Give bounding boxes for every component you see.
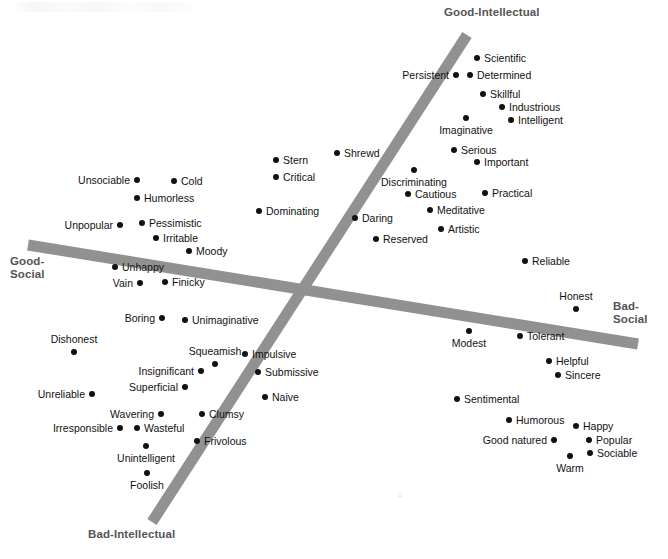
data-point-label: Important: [484, 157, 528, 168]
data-point-label: Modest: [452, 338, 486, 349]
data-point: [242, 351, 248, 357]
data-point: [405, 191, 411, 197]
data-point: [453, 72, 459, 78]
data-point-label: Reliable: [532, 256, 570, 267]
data-point-label: Tolerant: [527, 331, 564, 342]
data-point-label: Unpopular: [65, 220, 113, 231]
data-point-label: Irritable: [163, 233, 198, 244]
data-point: [480, 91, 486, 97]
data-point: [474, 159, 480, 165]
data-point-label: Industrious: [509, 102, 560, 113]
data-point-label: Shrewd: [344, 148, 380, 159]
data-point-label: Unsociable: [78, 175, 130, 186]
data-point-label: Unreliable: [38, 389, 85, 400]
data-point-label: Wavering: [110, 409, 154, 420]
data-point: [262, 394, 268, 400]
data-point: [373, 236, 379, 242]
data-point: [451, 147, 457, 153]
data-point-label: Foolish: [130, 480, 164, 491]
data-point: [186, 248, 192, 254]
data-point: [134, 195, 140, 201]
data-point-label: Imaginative: [439, 125, 493, 136]
data-point-label: Moody: [196, 246, 228, 257]
scatter-plot-figure: Good-Intellectual Bad-Intellectual Good-…: [0, 0, 668, 559]
data-point: [134, 177, 140, 183]
data-point-label: Honest: [559, 291, 592, 302]
data-point: [139, 220, 145, 226]
data-point: [454, 396, 460, 402]
data-point: [334, 150, 340, 156]
data-point: [463, 115, 469, 121]
data-point-label: Humorous: [516, 415, 564, 426]
data-point-label: Naive: [272, 392, 299, 403]
data-point-label: Impulsive: [252, 349, 296, 360]
data-point: [466, 328, 472, 334]
data-point: [89, 391, 95, 397]
data-point: [586, 437, 592, 443]
data-point-label: Dishonest: [51, 334, 98, 345]
data-point-label: Humorless: [144, 193, 194, 204]
data-point: [522, 258, 528, 264]
data-point-label: Superficial: [129, 382, 178, 393]
data-point: [567, 453, 573, 459]
data-point: [573, 423, 579, 429]
scan-artifact-bottom: ▵: [398, 490, 402, 499]
axis-label-bad-intellectual: Bad-Intellectual: [88, 528, 175, 541]
data-point: [427, 207, 433, 213]
axis-label-good-intellectual: Good-Intellectual: [444, 6, 540, 19]
axis-label-good-social: Good- Social: [10, 255, 44, 281]
data-point-label: Skillful: [490, 89, 520, 100]
data-point-label: Warm: [556, 463, 584, 474]
data-point: [273, 174, 279, 180]
data-point-label: Meditative: [437, 205, 485, 216]
axis-label-bad-social: Bad- Social: [613, 300, 647, 326]
data-point-label: Practical: [492, 188, 532, 199]
data-point-label: Finicky: [172, 277, 205, 288]
data-point: [551, 437, 557, 443]
data-point-label: Dominating: [266, 206, 319, 217]
data-point: [137, 280, 143, 286]
data-point: [411, 167, 417, 173]
data-point-label: Vain: [113, 278, 133, 289]
data-point: [153, 235, 159, 241]
data-point-label: Frivolous: [204, 436, 247, 447]
data-point-label: Good natured: [483, 435, 547, 446]
data-point-label: Insignificant: [139, 366, 194, 377]
data-point: [517, 333, 523, 339]
data-point: [134, 425, 140, 431]
data-point-label: Unintelligent: [117, 453, 175, 464]
data-point-label: Discriminating: [381, 177, 447, 188]
data-point: [71, 349, 77, 355]
data-point-label: Scientific: [484, 53, 526, 64]
data-point: [467, 72, 473, 78]
data-point-label: Unimaginative: [192, 315, 259, 326]
data-point: [112, 264, 118, 270]
data-point: [256, 208, 262, 214]
data-point-label: Irresponsible: [53, 423, 113, 434]
data-point: [508, 117, 514, 123]
data-point-label: Wasteful: [144, 423, 184, 434]
data-point-label: Popular: [596, 435, 632, 446]
data-point-label: Squeamish: [189, 346, 242, 357]
data-point: [182, 317, 188, 323]
data-point-label: Submissive: [265, 367, 319, 378]
data-point-label: Determined: [477, 70, 531, 81]
data-point: [546, 358, 552, 364]
data-point: [212, 361, 218, 367]
data-point-label: Clumsy: [209, 409, 244, 420]
data-point-label: Daring: [362, 213, 393, 224]
data-point: [117, 222, 123, 228]
data-point: [194, 438, 200, 444]
data-point-label: Stern: [283, 155, 308, 166]
data-point: [117, 425, 123, 431]
data-point-label: Helpful: [556, 356, 589, 367]
data-point: [158, 411, 164, 417]
data-point: [506, 417, 512, 423]
data-point-label: Reserved: [383, 234, 428, 245]
data-point: [438, 226, 444, 232]
data-point: [499, 104, 505, 110]
data-point: [273, 157, 279, 163]
data-point: [482, 190, 488, 196]
data-point: [587, 450, 593, 456]
data-point: [199, 411, 205, 417]
